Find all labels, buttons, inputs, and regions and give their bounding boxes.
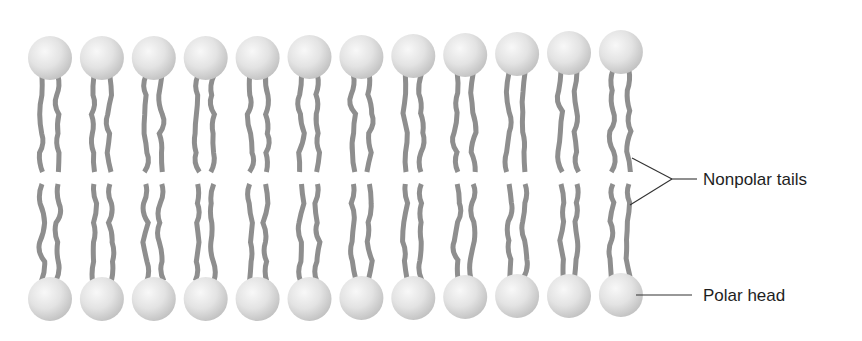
bottom-polar-head (184, 277, 228, 321)
bottom-tail-right (263, 184, 268, 281)
top-tail-right (367, 75, 373, 172)
bottom-tail-left (351, 184, 356, 280)
top-polar-head (132, 36, 176, 80)
bottom-tail-left (195, 184, 199, 281)
top-tail-left (194, 76, 199, 172)
bottom-tail-right (419, 184, 422, 280)
bottom-polar-head (132, 277, 176, 321)
top-tail-right (522, 72, 525, 172)
bottom-tail-right (210, 184, 215, 281)
bottom-tail-left (609, 184, 614, 277)
bottom-tail-right (315, 184, 320, 281)
top-polar-head (288, 35, 332, 79)
bottom-tail-left (453, 184, 461, 279)
bottom-tail-right (470, 184, 475, 279)
top-polar-head (184, 36, 228, 80)
bottom-polar-head (80, 277, 124, 321)
top-tail-left (39, 76, 43, 172)
top-tail-right (106, 76, 111, 172)
top-tail-right (55, 76, 59, 172)
top-tail-left (298, 75, 305, 172)
top-polar-head (599, 30, 643, 74)
tails-leader-lower-line (630, 179, 672, 205)
top-tail-left (144, 76, 149, 172)
bottom-polar-head (288, 277, 332, 321)
top-polar-head (495, 32, 539, 76)
top-tail-left (557, 71, 562, 172)
bottom-polar-head (339, 276, 383, 320)
top-tail-right (316, 75, 320, 172)
bottom-polar-head (28, 277, 72, 321)
bottom-polar-head (236, 277, 280, 321)
nonpolar-tails-group (39, 70, 631, 281)
bottom-tail-left (560, 184, 564, 278)
top-tail-right (265, 76, 269, 172)
tails-leader-upper-line (632, 158, 672, 179)
top-tail-right (471, 73, 476, 172)
top-polar-head (236, 36, 280, 80)
bottom-tail-right (575, 184, 579, 278)
polar-head-label: Polar head (703, 287, 785, 304)
top-polar-head (391, 34, 435, 78)
top-polar-head (339, 35, 383, 79)
bottom-tail-left (92, 184, 97, 281)
top-tail-left (350, 75, 356, 172)
top-polar-head (28, 36, 72, 80)
bottom-tail-right (55, 184, 61, 281)
bottom-tail-left (298, 184, 304, 281)
nonpolar-tails-label: Nonpolar tails (703, 171, 807, 188)
bottom-tail-right (109, 184, 114, 281)
top-polar-head (443, 33, 487, 77)
top-tail-right (574, 71, 579, 172)
bottom-polar-head (547, 274, 591, 318)
top-tail-left (403, 74, 407, 172)
bottom-tail-right (158, 184, 164, 281)
bottom-polar-head (495, 274, 539, 318)
bottom-polar-head (391, 276, 435, 320)
top-tail-left (609, 70, 615, 172)
bottom-tail-right (626, 184, 630, 277)
top-tail-right (159, 76, 164, 172)
top-polar-head (547, 31, 591, 75)
bottom-tail-left (507, 184, 512, 278)
top-tail-left (247, 76, 253, 172)
leader-lines-group (630, 158, 697, 295)
bottom-tail-left (248, 184, 253, 281)
top-tail-right (419, 74, 424, 172)
top-tail-left (452, 73, 458, 172)
bottom-polar-head (443, 275, 487, 319)
top-polar-head (80, 36, 124, 80)
top-tail-left (505, 72, 511, 172)
top-tail-left (91, 76, 94, 172)
polar-heads-group (28, 30, 643, 321)
bottom-tail-right (522, 184, 527, 278)
bottom-tail-left (39, 184, 45, 281)
bottom-tail-left (403, 184, 408, 280)
bottom-tail-right (367, 184, 372, 280)
bottom-tail-left (143, 184, 149, 281)
top-tail-right (627, 70, 631, 172)
top-tail-right (210, 76, 214, 172)
